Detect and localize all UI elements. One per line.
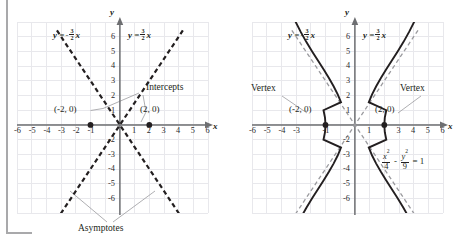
vertex-callout-right: Vertex [400,84,425,94]
x-tick--5: -5 [264,127,271,135]
x-tick--4: -4 [43,127,50,135]
x-tick--2: -2 [73,127,80,135]
x-tick--1: -1 [323,127,330,135]
x-tick-1: 1 [367,127,371,135]
x-tick--3: -3 [293,127,300,135]
vertex-point-right [381,122,387,128]
y-tick-4: 4 [111,62,115,70]
y-tick--2: -2 [343,136,350,144]
asymptotes-svg [0,0,235,247]
y-tick--6: -6 [108,195,115,203]
point-label-right: (2, 0) [375,105,395,114]
x-tick--4: -4 [278,127,285,135]
asymptote-equation-left: y = - 3 2 x [53,28,80,42]
y-tick-6: 6 [111,33,115,41]
x-tick--1: -1 [88,127,95,135]
x-tick-4: 4 [176,127,180,135]
y-axis-label: y [110,8,114,17]
y-tick-3: 3 [346,77,350,85]
y-tick--2: -2 [108,136,115,144]
point-label-left: (-2, 0) [54,105,77,114]
x-tick-3: 3 [396,127,400,135]
point-label-right: (2, 0) [140,105,160,114]
asymptote-equation-right: y = 3 2 x [128,28,151,42]
hyperbola-svg [235,0,469,247]
vertex-callout-left: Vertex [251,84,276,94]
y-tick-4: 4 [346,62,350,70]
y-tick--3: -3 [108,151,115,159]
y-tick-6: 6 [346,33,350,41]
x-tick-1: 1 [132,127,136,135]
x-tick-5: 5 [191,127,195,135]
asymptotes-graph-panel: y = - 3 2 x y = 3 2 x Intercepts Asympto… [0,0,235,247]
hyperbola-figure: y = - 3 2 x y = 3 2 x Intercepts Asympto… [0,0,469,247]
x-tick--6: -6 [249,127,256,135]
y-axis-label: y [345,8,349,17]
x-tick--5: -5 [29,127,36,135]
x-axis-label: x [213,122,218,131]
y-tick-1: 1 [346,107,350,115]
point-label-left: (-2, 0) [289,105,312,114]
y-tick--3: -3 [343,151,350,159]
x-tick-3: 3 [161,127,165,135]
y-tick--5: -5 [108,180,115,188]
y-tick-5: 5 [346,48,350,56]
y-tick--5: -5 [343,180,350,188]
x-tick-6: 6 [441,127,445,135]
y-axis-arrow [117,17,124,25]
y-tick-1: 1 [111,107,115,115]
asymptote-equation-left: y = - 3 2 x [288,28,315,42]
x-tick-4: 4 [411,127,415,135]
y-tick-2: 2 [346,92,350,100]
y-tick-2: 2 [111,92,115,100]
y-tick-3: 3 [111,77,115,85]
y-tick--4: -4 [343,165,350,173]
x-axis-label: x [448,122,453,131]
y-axis-arrow [352,17,359,25]
x-tick-6: 6 [206,127,210,135]
x-tick-5: 5 [426,127,430,135]
hyperbola-graph-panel: y = - 3 2 x y = 3 2 x x2 4 - y2 [235,0,469,247]
asymptote-equation-right: y = 3 2 x [363,28,386,42]
y-tick-5: 5 [111,48,115,56]
y-tick--6: -6 [343,195,350,203]
x-tick--6: -6 [14,127,21,135]
y-tick--4: -4 [108,165,115,173]
asymptotes-callout: Asymptotes [78,224,123,234]
x-tick-2: 2 [147,127,151,135]
hyperbola-equation: x2 4 - y2 9 = 1 [381,151,424,172]
x-tick--3: -3 [58,127,65,135]
intercepts-callout: Intercepts [146,83,183,93]
